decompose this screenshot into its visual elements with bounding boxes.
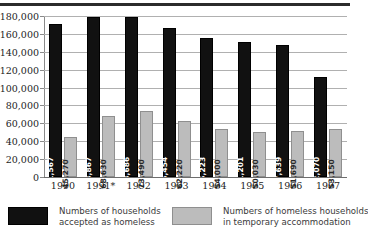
- bar-group: 178,86768,630: [82, 16, 120, 177]
- bar: 112,070: [314, 77, 327, 177]
- y-axis-tick-label: 0: [33, 172, 39, 183]
- bar: 178,867: [87, 17, 100, 177]
- bar-group: 166,45462,220: [158, 16, 196, 177]
- bar: 155,223: [200, 38, 213, 177]
- bar: 50,030: [253, 132, 266, 177]
- legend-label-accepted: Numbers of households accepted as homele…: [59, 206, 161, 227]
- bar: 166,454: [163, 28, 176, 177]
- bar-group: 171,56745,270: [44, 16, 82, 177]
- x-axis-labels: 19901991*199219931994199519961997: [44, 180, 347, 194]
- x-axis-line: [44, 177, 347, 178]
- legend-label-accepted-line1: Numbers of households: [59, 206, 161, 216]
- light-swatch-icon: [172, 207, 212, 225]
- bar: 53,150: [329, 129, 342, 177]
- bar: 73,490: [140, 111, 153, 177]
- legend-label-temporary-line2: in temporary accommodation: [223, 217, 368, 228]
- bar: 51,690: [291, 131, 304, 177]
- bar: 171,567: [49, 24, 62, 177]
- bar: 147,639: [276, 45, 289, 177]
- bar-group: 112,07053,150: [309, 16, 347, 177]
- chart-legend: Numbers of households accepted as homele…: [0, 203, 350, 236]
- x-axis-tick-label: 1991*: [82, 180, 120, 194]
- dark-swatch-icon: [8, 207, 48, 225]
- bar: 68,630: [102, 116, 115, 177]
- legend-label-temporary-line1: Numbers of homeless households: [223, 206, 368, 216]
- bar-group: 151,20150,030: [233, 16, 271, 177]
- y-axis-tick-label: 120,000: [0, 64, 39, 75]
- bar-group: 147,63951,690: [271, 16, 309, 177]
- legend-label-accepted-line2: accepted as homeless: [59, 217, 161, 228]
- x-axis-tick-label: 1997: [309, 180, 347, 194]
- bar-group: 155,22354,000: [196, 16, 234, 177]
- x-axis-tick-label: 1992: [120, 180, 158, 194]
- legend-item-accepted: Numbers of households accepted as homele…: [8, 206, 161, 227]
- x-axis-tick-label: 1994: [196, 180, 234, 194]
- y-axis-tick-label: 160,000: [0, 28, 39, 39]
- bar: 62,220: [178, 121, 191, 177]
- y-axis-tick-label: 100,000: [0, 82, 39, 93]
- top-divider-rule: [0, 3, 350, 6]
- y-axis-labels: 020,00040,00060,00080,000100,000120,0001…: [0, 0, 42, 236]
- y-axis-tick-label: 20,000: [6, 154, 39, 165]
- y-axis-tick-label: 60,000: [6, 118, 39, 129]
- x-axis-tick-label: 1990: [44, 180, 82, 194]
- x-axis-tick-label: 1995: [233, 180, 271, 194]
- legend-item-temporary: Numbers of homeless households in tempor…: [172, 206, 368, 227]
- bar: 178,686: [125, 17, 138, 177]
- y-axis-tick-label: 40,000: [6, 136, 39, 147]
- x-axis-tick-label: 1996: [271, 180, 309, 194]
- y-axis-tick-label: 140,000: [0, 46, 39, 57]
- bar: 151,201: [238, 42, 251, 177]
- bar: 54,000: [215, 129, 228, 177]
- x-axis-tick-label: 1993: [158, 180, 196, 194]
- bar-groups: 171,56745,270178,86768,630178,68673,4901…: [44, 16, 347, 177]
- legend-label-temporary: Numbers of homeless households in tempor…: [223, 206, 368, 227]
- y-axis-tick-label: 180,000: [0, 11, 39, 22]
- bar: 45,270: [64, 137, 77, 177]
- bar-group: 178,68673,490: [120, 16, 158, 177]
- y-axis-tick-label: 80,000: [6, 100, 39, 111]
